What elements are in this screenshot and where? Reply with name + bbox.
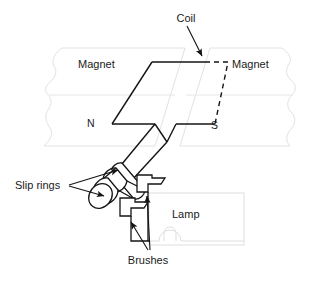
slip-rings-label: Slip rings bbox=[15, 179, 61, 191]
brushes-leader-line-lower bbox=[131, 222, 148, 250]
magnet-left-label: Magnet bbox=[78, 58, 115, 70]
brush-upper bbox=[137, 175, 165, 192]
lamp-label: Lamp bbox=[172, 208, 200, 220]
diagram-canvas: Coil Magnet Magnet N S Slip rings Lamp B… bbox=[0, 0, 331, 287]
magnet-right-label: Magnet bbox=[232, 58, 269, 70]
lamp-bulb-icon bbox=[159, 230, 181, 241]
lamp-filament-icon bbox=[164, 227, 176, 241]
coil-leader-line bbox=[187, 26, 202, 56]
pole-south-label: S bbox=[211, 119, 218, 131]
brushes-label: Brushes bbox=[128, 254, 169, 266]
coil-leader bbox=[187, 26, 202, 56]
pole-north-label: N bbox=[87, 117, 95, 129]
coil-label: Coil bbox=[177, 12, 196, 24]
coil-notch-right bbox=[167, 124, 176, 142]
brush-lower bbox=[120, 198, 148, 216]
generator-diagram: Coil Magnet Magnet N S Slip rings Lamp B… bbox=[0, 0, 331, 287]
coil-lead-wire-b bbox=[133, 142, 167, 179]
